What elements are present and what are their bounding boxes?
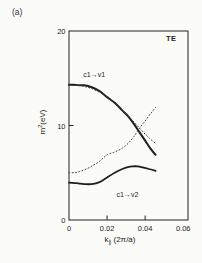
curve-annotation: c1→v2 [117,191,139,198]
x-axis-label-subscript: ∥ [109,239,112,245]
x-tick-label: 0.04 [138,224,153,233]
curve-c1-v1-solid [69,85,156,155]
polarization-mode-label: TE [166,34,176,43]
curve-c1-v1-dotted [69,85,156,143]
x-tick-label: 0.02 [100,224,115,233]
curve-ascending-dotted [69,108,156,173]
y-axis-label-superscript: 2 [37,125,43,128]
x-tick-label: 0 [67,224,71,233]
x-axis-label-unit: (2π/a) [114,235,136,244]
curve-annotation: c1→v1 [83,71,105,78]
curve-c1-v2-solid [69,166,156,184]
figure-panel: (a) 00.020.040.0601020c1→v1c1→v2 TE m2(e… [0,0,202,263]
y-tick-label: 10 [57,122,65,131]
x-tick-label: 0.06 [176,224,191,233]
y-tick-label: 20 [57,27,65,36]
y-axis-label: m2(eV) [37,93,49,151]
x-axis-label: k∥ (2π/a) [80,235,160,245]
y-axis-label-base: m [38,128,47,135]
y-tick-label: 0 [61,216,65,225]
y-axis-label-unit: (eV) [38,110,47,125]
